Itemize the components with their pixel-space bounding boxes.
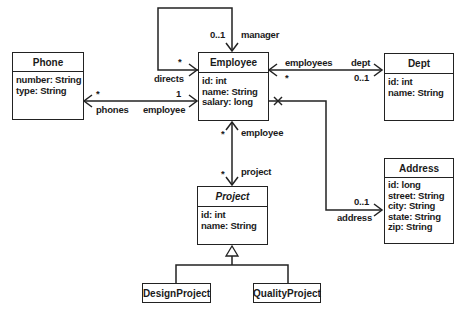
role-employees: employees bbox=[285, 57, 332, 68]
class-employee-name: Employee bbox=[199, 53, 268, 73]
attribute: id: int bbox=[202, 76, 265, 87]
class-quality-project[interactable]: QualityProject bbox=[253, 283, 321, 303]
mult-address: 0..1 bbox=[354, 196, 369, 207]
role-manager: manager bbox=[241, 29, 279, 40]
class-phone-name: Phone bbox=[13, 53, 83, 72]
attribute: number: String bbox=[16, 75, 80, 86]
attribute: salary: long bbox=[202, 97, 265, 108]
attribute: name: String bbox=[388, 88, 450, 99]
role-employee: employee bbox=[143, 104, 185, 115]
role-project: project bbox=[241, 166, 271, 177]
class-project[interactable]: Project id: int name: String bbox=[197, 186, 268, 245]
class-address-attributes: id: long street: String city: String sta… bbox=[385, 178, 453, 236]
generalization-arrow-icon bbox=[226, 246, 238, 256]
class-employee-attributes: id: int name: String salary: long bbox=[199, 73, 268, 111]
class-address[interactable]: Address id: long street: String city: St… bbox=[384, 158, 454, 244]
attribute: name: String bbox=[201, 221, 264, 232]
attribute: id: int bbox=[201, 210, 264, 221]
mult-employee: 1 bbox=[176, 88, 181, 99]
mult-directs: * bbox=[178, 56, 182, 67]
mult-project: * bbox=[221, 168, 225, 179]
class-employee[interactable]: Employee id: int name: String salary: lo… bbox=[198, 52, 269, 121]
attribute: city: String bbox=[388, 201, 450, 212]
attribute: type: String bbox=[16, 86, 80, 97]
class-design-project[interactable]: DesignProject bbox=[142, 283, 211, 303]
class-address-name: Address bbox=[385, 159, 453, 178]
role-directs: directs bbox=[154, 73, 184, 84]
mult-manager: 0..1 bbox=[210, 29, 225, 40]
role-employee-project: employee bbox=[241, 127, 283, 138]
mult-employee-project: * bbox=[221, 128, 225, 139]
class-dept[interactable]: Dept id: int name: String bbox=[384, 53, 454, 121]
role-phones: phones bbox=[96, 104, 129, 115]
class-project-attributes: id: int name: String bbox=[198, 207, 267, 234]
mult-phones: * bbox=[96, 88, 100, 99]
role-dept: dept bbox=[351, 57, 370, 68]
attribute: zip: String bbox=[388, 222, 450, 233]
mult-dept: 0..1 bbox=[354, 72, 369, 83]
class-project-name: Project bbox=[198, 187, 267, 207]
class-dept-name: Dept bbox=[385, 54, 453, 74]
attribute: id: int bbox=[388, 77, 450, 88]
attribute: id: long bbox=[388, 180, 450, 191]
class-dept-attributes: id: int name: String bbox=[385, 74, 453, 101]
role-address: address bbox=[337, 212, 372, 223]
mult-employees: * bbox=[285, 72, 289, 83]
class-phone-attributes: number: String type: String bbox=[13, 72, 83, 99]
class-phone[interactable]: Phone number: String type: String bbox=[12, 52, 84, 120]
